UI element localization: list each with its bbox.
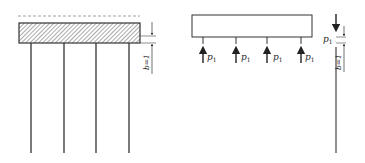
hatched-slab xyxy=(19,23,140,43)
load-arrow-1: p1 xyxy=(203,37,217,63)
svg-text:p1: p1 xyxy=(241,52,251,63)
left-figure: b=1 xyxy=(18,16,156,153)
single-rod: p1 b=1 xyxy=(323,14,346,153)
free-body-slab xyxy=(192,15,312,37)
svg-text:p1: p1 xyxy=(305,52,315,63)
svg-text:p1: p1 xyxy=(207,52,217,63)
diagram-canvas: b=1 p1 p1 p1 p1 p1 xyxy=(0,0,365,163)
svg-text:p1: p1 xyxy=(323,34,333,45)
svg-text:p1: p1 xyxy=(273,52,283,63)
right-figure: p1 p1 p1 p1 p1 b=1 xyxy=(192,14,346,153)
load-arrow-2: p1 xyxy=(236,37,251,63)
dimension-b1-left: b=1 xyxy=(140,22,156,74)
dimension-label: b=1 xyxy=(142,54,151,70)
load-arrow-4: p1 xyxy=(301,37,315,63)
dimension-label-right: b=1 xyxy=(334,54,343,70)
load-arrow-3: p1 xyxy=(267,37,283,63)
